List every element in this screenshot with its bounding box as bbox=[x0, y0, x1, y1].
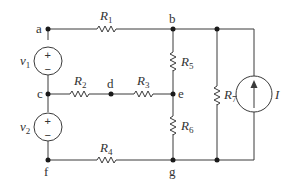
resistor-r6 bbox=[170, 116, 176, 135]
label-r3: R3 bbox=[136, 73, 150, 90]
label-v2: v2 bbox=[20, 119, 30, 136]
label-r4: R4 bbox=[99, 140, 113, 157]
label-r7: R7 bbox=[223, 87, 237, 104]
node-d bbox=[109, 92, 114, 97]
node-b bbox=[171, 27, 176, 32]
label-current-i: I bbox=[274, 87, 280, 102]
label-node-f: f bbox=[44, 164, 49, 179]
label-node-b: b bbox=[169, 11, 176, 26]
label-node-a: a bbox=[36, 21, 42, 36]
label-node-g: g bbox=[169, 164, 176, 179]
v2-minus-sign: − bbox=[45, 129, 51, 141]
node-f bbox=[46, 158, 51, 163]
resistor-r2 bbox=[70, 91, 89, 97]
label-v1: v1 bbox=[20, 53, 30, 70]
resistor-r3 bbox=[134, 91, 153, 97]
circuit-diagram: + − + − a b c d e f g R1 R2 R3 R4 R5 R6 … bbox=[0, 0, 288, 189]
node-c bbox=[46, 92, 51, 97]
label-node-e: e bbox=[178, 86, 184, 101]
label-r6: R6 bbox=[180, 118, 194, 135]
node-a bbox=[46, 27, 51, 32]
resistor-r4 bbox=[97, 157, 116, 163]
label-r5: R5 bbox=[180, 54, 194, 71]
resistor-r5 bbox=[170, 52, 176, 71]
node-g bbox=[171, 158, 176, 163]
node-e bbox=[171, 92, 176, 97]
label-node-d: d bbox=[107, 76, 114, 91]
v1-plus-sign: + bbox=[45, 49, 51, 61]
resistor-r1 bbox=[97, 26, 116, 32]
v2-plus-sign: + bbox=[45, 115, 51, 127]
v1-minus-sign: − bbox=[45, 63, 51, 75]
resistor-r7 bbox=[214, 86, 220, 105]
node-g2 bbox=[215, 158, 220, 163]
label-node-c: c bbox=[37, 86, 43, 101]
label-r1: R1 bbox=[99, 8, 112, 25]
node-b2 bbox=[215, 27, 220, 32]
label-r2: R2 bbox=[73, 73, 86, 90]
